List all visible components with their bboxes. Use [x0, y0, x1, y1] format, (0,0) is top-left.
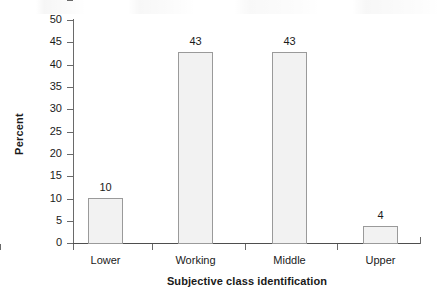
x-tick-start	[73, 244, 74, 250]
bar-lower	[88, 198, 123, 244]
y-tick-label-35: 35	[24, 81, 62, 92]
y-tick-20	[67, 154, 73, 155]
y-tick-45	[67, 42, 73, 43]
x-tick-div-3	[337, 244, 338, 250]
y-tick-30	[67, 109, 73, 110]
y-tick-40	[67, 65, 73, 66]
x-category-label-working: Working	[166, 254, 225, 266]
y-tick-label-0: 0	[24, 237, 62, 248]
x-tick-div-1	[152, 244, 153, 250]
y-tick-label-45: 45	[24, 36, 62, 47]
y-tick-label-30: 30	[24, 103, 62, 114]
bar-value-working: 43	[166, 36, 225, 47]
x-category-label-lower: Lower	[76, 254, 135, 266]
x-tick-div-2	[245, 244, 246, 250]
y-tick-label-20: 20	[24, 148, 62, 159]
bar-value-upper: 4	[351, 210, 410, 221]
y-tick-35	[67, 87, 73, 88]
y-tick-label-25: 25	[24, 126, 62, 137]
y-tick-5	[67, 221, 73, 222]
bar-middle	[272, 52, 307, 244]
bar-chart: Percent 50 45 40 35 30 25 20 15 10 5 0 1…	[0, 0, 448, 301]
y-tick-label-10: 10	[24, 193, 62, 204]
y-tick-label-50: 50	[24, 14, 62, 25]
bar-value-lower: 10	[76, 182, 135, 193]
bar-working	[178, 52, 213, 244]
y-tick-15	[67, 176, 73, 177]
x-tick-div-2x	[0, 244, 1, 250]
y-axis-line	[73, 19, 74, 244]
scan-noise-artifact	[0, 0, 448, 14]
x-axis-title: Subjective class identification	[73, 275, 421, 287]
y-tick-10	[67, 199, 73, 200]
y-tick-label-15: 15	[24, 170, 62, 181]
y-tick-label-5: 5	[24, 215, 62, 226]
y-tick-25b	[67, 132, 73, 133]
y-tick-25	[67, 0, 73, 1]
bar-value-middle: 43	[260, 36, 319, 47]
x-category-label-middle: Middle	[260, 254, 319, 266]
x-category-label-upper: Upper	[351, 254, 410, 266]
bar-upper	[363, 226, 398, 244]
y-tick-50	[67, 20, 73, 21]
y-tick-label-40: 40	[24, 59, 62, 70]
x-axis-end-tick	[420, 237, 421, 244]
